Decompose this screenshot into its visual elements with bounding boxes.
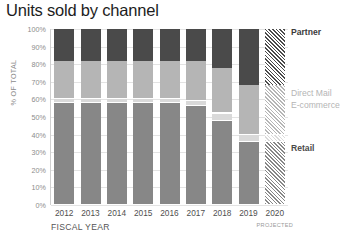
- bar-segment-e-commerce-2014[interactable]: [107, 99, 127, 103]
- y-axis-tick-label: 20%: [6, 166, 46, 175]
- bar-segment-direct-mail-2017[interactable]: [186, 61, 206, 101]
- x-axis-tick-label-2012: 2012: [51, 208, 77, 218]
- legend-item-direct-mail: Direct Mail: [291, 88, 332, 98]
- x-axis-tick-label-2016: 2016: [156, 208, 182, 218]
- legend-item-partner: Partner: [291, 27, 321, 37]
- bar-segment-direct-mail-2019[interactable]: [239, 85, 259, 134]
- y-axis-tick-label: 70%: [6, 78, 46, 87]
- bar-2013[interactable]: [81, 29, 101, 205]
- x-axis-tick-label-2014: 2014: [104, 208, 130, 218]
- bar-2018[interactable]: [212, 29, 232, 205]
- x-axis-tick-label-2019: 2019: [235, 208, 261, 218]
- y-axis-tick-label: 60%: [6, 95, 46, 104]
- legend-item-retail: Retail: [291, 143, 314, 153]
- bar-segment-partner-2018[interactable]: [212, 29, 232, 68]
- bar-segment-partner-2012[interactable]: [54, 29, 74, 61]
- bar-2014[interactable]: [107, 29, 127, 205]
- bar-segment-retail-2015[interactable]: [133, 103, 153, 205]
- y-axis-tick-label: 0%: [6, 201, 46, 210]
- y-axis-tick-label: 30%: [6, 148, 46, 157]
- bar-segment-retail-2020[interactable]: [265, 142, 285, 205]
- bar-2016[interactable]: [160, 29, 180, 205]
- chart-title: Units sold by channel: [6, 1, 159, 20]
- bar-2012[interactable]: [54, 29, 74, 205]
- bar-segment-direct-mail-2014[interactable]: [107, 61, 127, 100]
- bar-segment-retail-2014[interactable]: [107, 103, 127, 205]
- bar-segment-direct-mail-2016[interactable]: [160, 61, 180, 100]
- x-axis-tick-label-2013: 2013: [77, 208, 103, 218]
- y-axis-tick-label: 90%: [6, 43, 46, 52]
- bar-2015[interactable]: [133, 29, 153, 205]
- x-axis-tick-label-2020: 2020: [262, 208, 288, 218]
- bar-segment-retail-2013[interactable]: [81, 103, 101, 205]
- bar-segment-e-commerce-2020[interactable]: [265, 135, 285, 142]
- bar-segment-retail-2016[interactable]: [160, 103, 180, 205]
- bar-segment-e-commerce-2013[interactable]: [81, 99, 101, 103]
- bar-segment-retail-2019[interactable]: [239, 142, 259, 205]
- bar-segment-partner-2017[interactable]: [186, 29, 206, 61]
- x-axis-tick-label-2017: 2017: [183, 208, 209, 218]
- x-axis-tick-label-2015: 2015: [130, 208, 156, 218]
- bar-segment-partner-2020[interactable]: [265, 29, 285, 85]
- bar-segment-retail-2018[interactable]: [212, 121, 232, 205]
- bar-segment-partner-2016[interactable]: [160, 29, 180, 61]
- y-axis-tick-label: 100%: [6, 25, 46, 34]
- bar-2019[interactable]: [239, 29, 259, 205]
- gridline: [51, 205, 288, 206]
- y-axis-tick-label: 40%: [6, 131, 46, 140]
- bar-segment-e-commerce-2015[interactable]: [133, 99, 153, 103]
- bar-segment-direct-mail-2018[interactable]: [212, 68, 232, 114]
- bar-segment-partner-2013[interactable]: [81, 29, 101, 61]
- y-axis-tick-label: 50%: [6, 113, 46, 122]
- x-axis-tick-label-2018: 2018: [209, 208, 235, 218]
- bar-segment-retail-2012[interactable]: [54, 103, 74, 205]
- bar-segment-partner-2014[interactable]: [107, 29, 127, 61]
- bar-segment-e-commerce-2017[interactable]: [186, 101, 206, 106]
- bar-segment-direct-mail-2015[interactable]: [133, 61, 153, 100]
- y-axis-tick-label: 10%: [6, 183, 46, 192]
- plot-area: 0%10%20%30%40%50%60%70%80%90%100%: [51, 29, 288, 205]
- bar-segment-retail-2017[interactable]: [186, 106, 206, 205]
- bar-segment-e-commerce-2016[interactable]: [160, 99, 180, 103]
- bar-2020[interactable]: [265, 29, 285, 205]
- x-axis-title: FISCAL YEAR: [51, 222, 110, 232]
- bar-2017[interactable]: [186, 29, 206, 205]
- bar-segment-direct-mail-2020[interactable]: [265, 85, 285, 134]
- bar-segment-partner-2019[interactable]: [239, 29, 259, 85]
- bar-segment-direct-mail-2012[interactable]: [54, 61, 74, 100]
- y-axis-tick-label: 80%: [6, 60, 46, 69]
- bar-segment-e-commerce-2019[interactable]: [239, 135, 259, 142]
- bar-segment-e-commerce-2018[interactable]: [212, 114, 232, 121]
- legend-item-ecommerce: E-commerce: [291, 100, 340, 110]
- bar-segment-partner-2015[interactable]: [133, 29, 153, 61]
- bar-segment-e-commerce-2012[interactable]: [54, 99, 74, 103]
- chart-container: Units sold by channel % OF TOTAL 0%10%20…: [0, 0, 357, 245]
- bar-segment-direct-mail-2013[interactable]: [81, 61, 101, 100]
- projected-annotation: PROJECTED: [254, 222, 296, 228]
